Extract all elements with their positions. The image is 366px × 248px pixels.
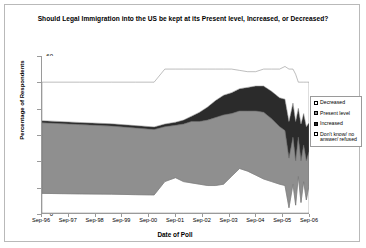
x-tick-mark [202,214,203,217]
x-tick-mark [68,214,69,217]
y-axis-title: Percentage of Respondents [19,35,25,165]
legend-item[interactable]: Decreased [314,100,359,106]
legend-swatch-icon [314,101,318,105]
x-tick-mark [41,214,42,217]
plot-area [41,56,309,214]
x-axis-title: Date of Poll [41,231,309,238]
legend-item[interactable]: Increased [314,121,359,127]
x-tick-mark [148,214,149,217]
legend-swatch-icon [314,132,318,136]
x-tick-mark [175,214,176,217]
x-tick-mark [121,214,122,217]
legend-item-label: Increased [320,121,343,127]
legend-item-label: Present level [320,111,350,117]
x-tick-mark [95,214,96,217]
chart-legend: DecreasedPresent levelIncreasedDon't kno… [310,96,362,147]
legend-swatch-icon [314,111,318,115]
chart-frame: Should Legal Immigration into the US be … [4,4,360,242]
legend-item-label: Don't know/ no answer/ refused [320,132,359,143]
chart-title: Should Legal Immigration into the US be … [35,14,331,24]
x-tick-mark [309,214,310,217]
legend-swatch-icon [314,122,318,126]
x-tick-mark [229,214,230,217]
x-tick-mark [282,214,283,217]
x-tick-mark [255,214,256,217]
legend-item[interactable]: Don't know/ no answer/ refused [314,132,359,143]
stacked-area-series [42,56,309,213]
x-tick-label: Sep-06 [292,217,326,223]
legend-item[interactable]: Present level [314,111,359,117]
legend-item-label: Decreased [320,100,345,106]
